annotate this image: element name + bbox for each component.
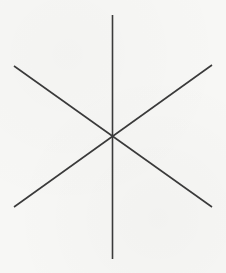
asterisk-star-diagram bbox=[0, 0, 226, 273]
star-lines bbox=[14, 15, 212, 259]
diagram-canvas bbox=[0, 0, 226, 273]
